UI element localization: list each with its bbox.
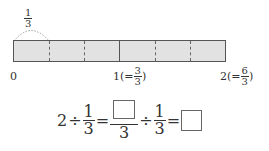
third-divider xyxy=(49,41,50,61)
paren-open: (= xyxy=(227,70,241,83)
tick-label-1: 1(= 3 3 ) xyxy=(113,66,146,87)
fraction: 1 3 xyxy=(154,104,166,137)
divide-sign: ÷ xyxy=(68,111,81,130)
divide-sign: ÷ xyxy=(139,111,152,130)
tick-fraction: 3 3 xyxy=(134,66,142,87)
fraction-denominator: 3 xyxy=(83,121,95,137)
whole-number: 2 xyxy=(57,111,67,130)
paren-close: ) xyxy=(142,70,146,83)
equals-sign: = xyxy=(167,111,180,130)
third-divider xyxy=(190,41,191,61)
answer-box[interactable] xyxy=(181,110,202,131)
fraction-numerator xyxy=(110,99,138,125)
fraction-denominator: 3 xyxy=(118,125,130,141)
segment-fraction-label: 1 3 xyxy=(24,8,32,29)
answer-box-numerator[interactable] xyxy=(113,100,135,119)
third-divider xyxy=(155,41,156,61)
third-divider xyxy=(84,41,85,61)
equals-sign: = xyxy=(96,111,109,130)
tick-fraction: 6 3 xyxy=(241,66,249,87)
paren-close: ) xyxy=(249,70,253,83)
fraction-denominator: 3 xyxy=(134,77,142,87)
fraction-denominator: 3 xyxy=(241,77,249,87)
fraction-numerator: 1 xyxy=(83,104,95,121)
fraction-numerator: 1 xyxy=(154,104,166,121)
fraction: 1 3 xyxy=(83,104,95,137)
fraction-denominator: 3 xyxy=(24,19,32,29)
tick-whole: 1 xyxy=(113,70,120,83)
unit-divider xyxy=(119,41,120,61)
fraction-with-blank: 3 xyxy=(110,99,138,141)
equation: 2 ÷ 1 3 = 3 ÷ 1 3 = xyxy=(57,99,202,141)
fraction-bar xyxy=(13,40,226,62)
tick-label-0: 0 xyxy=(10,70,17,83)
tick-whole: 2 xyxy=(220,70,227,83)
fraction-denominator: 3 xyxy=(154,121,166,137)
paren-open: (= xyxy=(120,70,134,83)
tick-label-2: 2(= 6 3 ) xyxy=(220,66,253,87)
